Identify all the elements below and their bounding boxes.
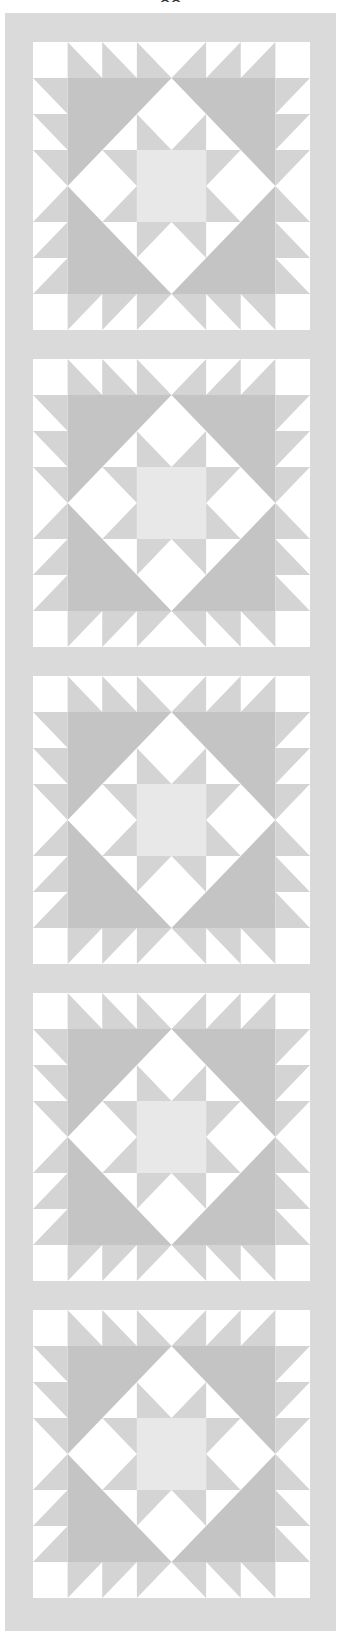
quilt-block (33, 42, 310, 330)
page-number: 88 (0, 0, 341, 2)
quilt-runner (5, 13, 336, 1631)
quilt-illustration (5, 13, 336, 1631)
quilt-block (33, 359, 310, 647)
quilt-block (33, 993, 310, 1281)
quilt-block (33, 1310, 310, 1598)
quilt-block (33, 676, 310, 964)
